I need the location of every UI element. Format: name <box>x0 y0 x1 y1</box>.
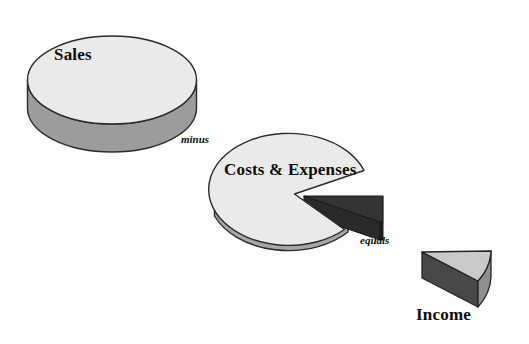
node-label-sales: Sales <box>54 45 92 65</box>
node-sales <box>28 36 197 152</box>
node-label-income: Income <box>416 305 471 325</box>
operator-label-minus: minus <box>181 133 209 145</box>
costs-pie-top <box>209 133 364 245</box>
sales-cylinder-top <box>28 36 197 124</box>
operator-label-equals: equals <box>360 234 389 246</box>
node-costs <box>209 133 383 250</box>
diagram-canvas: Sales Costs & Expenses Income minus equa… <box>0 0 529 344</box>
node-label-costs: Costs & Expenses <box>224 160 357 180</box>
node-income <box>422 251 491 307</box>
